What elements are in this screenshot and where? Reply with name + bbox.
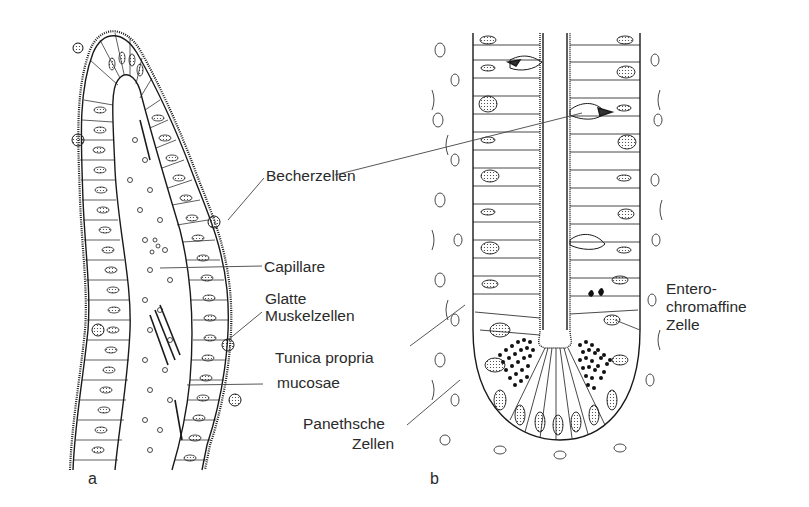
label-entero-line1: Entero- <box>666 280 717 297</box>
label-tunica-line1: Tunica propria <box>275 349 374 366</box>
label-paneth-line2: Zellen <box>352 435 394 452</box>
label-tunica-line2: mucosae <box>277 374 340 391</box>
leader-lines <box>160 113 640 425</box>
label-entero-line2: chromaffine <box>666 298 747 315</box>
label-paneth-line1: Panethsche <box>303 415 385 432</box>
label-entero-line3: Zelle <box>666 316 700 333</box>
illustration <box>0 0 809 507</box>
villus-drawing <box>70 31 241 470</box>
label-glatte-line2: Muskelzellen <box>265 307 355 324</box>
panel-letter-b: b <box>430 470 439 488</box>
label-capillare: Capillare <box>264 258 325 275</box>
crypt-drawing <box>432 33 662 459</box>
label-becherzellen: Becherzellen <box>266 167 356 184</box>
panel-letter-a: a <box>88 470 97 488</box>
histology-figure: Becherzellen Capillare Glatte Muskelzell… <box>0 0 809 507</box>
label-glatte-line1: Glatte <box>265 290 306 307</box>
